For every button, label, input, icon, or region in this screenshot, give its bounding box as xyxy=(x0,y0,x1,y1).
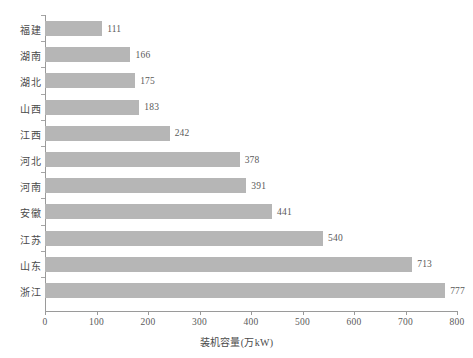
y-axis-tick xyxy=(41,146,45,147)
bar-row: 242 xyxy=(45,126,473,141)
y-axis-tick xyxy=(41,172,45,173)
bar xyxy=(45,152,240,167)
bar-row: 183 xyxy=(45,100,473,115)
x-axis-tick-label: 800 xyxy=(450,317,465,327)
category-label-1: 湖南 xyxy=(0,48,41,63)
bar-row: 378 xyxy=(45,152,473,167)
bar-value-label: 242 xyxy=(175,128,190,138)
x-axis-tick-label: 500 xyxy=(295,317,310,327)
category-label-7: 安徽 xyxy=(0,205,41,220)
y-axis-tick xyxy=(41,67,45,68)
bar-value-label: 713 xyxy=(417,259,432,269)
bar xyxy=(45,283,445,298)
bar-value-label: 111 xyxy=(107,24,121,34)
y-axis-tick xyxy=(41,251,45,252)
bar xyxy=(45,100,139,115)
category-label-0: 福建 xyxy=(0,22,41,37)
category-label-9: 山东 xyxy=(0,258,41,273)
category-label-10: 浙江 xyxy=(0,284,41,299)
x-axis-tick-label: 600 xyxy=(347,317,362,327)
x-axis-tick-label: 200 xyxy=(141,317,156,327)
y-axis-tick xyxy=(41,15,45,16)
bar-value-label: 540 xyxy=(328,233,343,243)
bar xyxy=(45,73,135,88)
bar-value-label: 777 xyxy=(450,286,465,296)
category-label-6: 河南 xyxy=(0,179,41,194)
bar-value-label: 378 xyxy=(245,155,260,165)
bar-value-label: 175 xyxy=(140,76,155,86)
x-axis-tick-label: 0 xyxy=(43,317,48,327)
x-axis-tick-label: 100 xyxy=(89,317,104,327)
x-axis-tick xyxy=(45,311,46,315)
bar-row: 441 xyxy=(45,204,473,219)
x-axis-tick xyxy=(148,311,149,315)
bar-row: 391 xyxy=(45,178,473,193)
bar xyxy=(45,231,323,246)
category-label-4: 江西 xyxy=(0,127,41,142)
y-axis-tick xyxy=(41,198,45,199)
x-axis-tick-label: 400 xyxy=(244,317,259,327)
x-axis-tick xyxy=(97,311,98,315)
x-axis-tick xyxy=(303,311,304,315)
bar-row: 111 xyxy=(45,21,473,36)
x-axis-tick xyxy=(200,311,201,315)
bar-value-label: 391 xyxy=(251,181,266,191)
bar-row: 777 xyxy=(45,283,473,298)
x-axis-tick xyxy=(457,311,458,315)
x-axis-tick-label: 700 xyxy=(398,317,413,327)
bar xyxy=(45,47,130,62)
x-axis-tick xyxy=(251,311,252,315)
x-axis-tick xyxy=(354,311,355,315)
y-axis-tick xyxy=(41,41,45,42)
y-axis-tick xyxy=(41,225,45,226)
x-axis-tick-label: 300 xyxy=(192,317,207,327)
bar xyxy=(45,204,272,219)
category-label-2: 湖北 xyxy=(0,74,41,89)
bar-value-label: 441 xyxy=(277,207,292,217)
bar-row: 540 xyxy=(45,231,473,246)
bar-row: 175 xyxy=(45,73,473,88)
x-axis-tick xyxy=(406,311,407,315)
y-axis-tick xyxy=(41,94,45,95)
category-label-3: 山西 xyxy=(0,101,41,116)
bar-value-label: 183 xyxy=(144,102,159,112)
y-axis-tick xyxy=(41,120,45,121)
bar-row: 713 xyxy=(45,257,473,272)
bar xyxy=(45,178,246,193)
bar xyxy=(45,126,170,141)
bar xyxy=(45,21,102,36)
x-axis-title: 装机容量(万kW) xyxy=(0,334,473,349)
category-label-8: 江苏 xyxy=(0,232,41,247)
bar-chart: 福建湖南湖北山西江西河北河南安徽江苏山东浙江 11116617518324237… xyxy=(0,0,473,358)
bar-value-label: 166 xyxy=(135,50,150,60)
category-label-5: 河北 xyxy=(0,153,41,168)
bar-row: 166 xyxy=(45,47,473,62)
y-axis-tick xyxy=(41,277,45,278)
bar xyxy=(45,257,412,272)
